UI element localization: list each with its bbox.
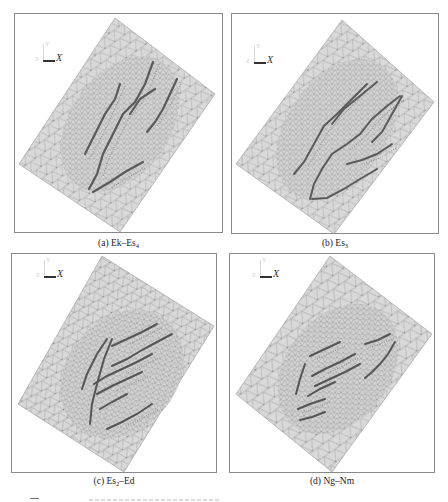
- y-axis-label: Y: [262, 257, 266, 263]
- y-axis-line: [254, 46, 255, 62]
- x-axis-label: X: [267, 54, 273, 65]
- mesh-d: [230, 254, 435, 473]
- x-axis-label: X: [273, 268, 279, 279]
- figure-caption-faded-text: [89, 499, 219, 501]
- x-axis-line: [43, 60, 55, 62]
- panel-c-caption: (c) Es2–Ed: [11, 476, 217, 487]
- y-axis-label: Y: [46, 257, 50, 263]
- panel-d-caption: (d) Ng–Nm: [229, 476, 435, 487]
- y-axis-label: Y: [45, 41, 49, 47]
- x-axis-label: X: [56, 52, 62, 63]
- panel-a: Y X Z: [14, 13, 223, 233]
- y-axis-line: [44, 260, 45, 276]
- x-axis-label: X: [57, 268, 63, 279]
- axis-triad: Y X Z: [35, 44, 65, 70]
- z-axis-label: Z: [36, 272, 40, 278]
- panel-d: Y X Z: [229, 253, 435, 473]
- figure-caption-glyph: [30, 498, 39, 502]
- y-axis-label: Y: [256, 43, 260, 49]
- axis-triad: Y X Z: [246, 46, 276, 72]
- axis-triad: Y X Z: [252, 260, 282, 286]
- mesh-c: [12, 254, 217, 473]
- figure-caption-partial: [30, 494, 430, 502]
- panel-b: Y X Z: [231, 13, 439, 234]
- z-axis-label: Z: [252, 272, 256, 278]
- x-axis-line: [44, 276, 56, 278]
- y-axis-line: [43, 44, 44, 60]
- x-axis-line: [260, 276, 272, 278]
- axis-triad: Y X Z: [36, 260, 66, 286]
- y-axis-line: [260, 260, 261, 276]
- z-axis-label: Z: [35, 56, 39, 62]
- panel-b-caption: (b) Es3: [231, 238, 439, 249]
- z-axis-label: Z: [246, 58, 250, 64]
- panel-c: Y X Z: [11, 253, 217, 473]
- x-axis-line: [254, 62, 266, 64]
- panel-a-caption: (a) Ek–Es4: [14, 238, 223, 249]
